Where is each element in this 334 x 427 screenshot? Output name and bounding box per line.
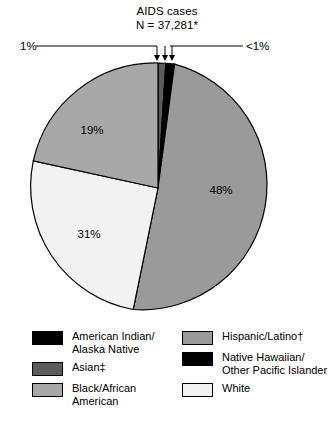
callout-arrowheads [154,55,175,61]
legend-swatch-asian [32,362,63,376]
legend-label-hispanic-latino: Hispanic/Latino† [222,330,303,343]
legend-swatch-black-african-american [32,383,63,397]
legend-item-black-african-american[interactable]: Black/African American [32,382,182,407]
legend-column-left: American Indian/ Alaska Native Asian‡ Bl… [32,330,182,413]
slice-label-black-african-american: 19% [80,124,103,136]
leader-line-left [36,46,157,56]
legend-item-asian[interactable]: Asian‡ [32,361,182,376]
callout-leader-lines [36,46,243,56]
legend-item-white[interactable]: White [182,382,334,397]
legend-swatch-white [182,383,213,397]
legend-item-native-hawaiian-other-pacific-islander[interactable]: Native Hawaiian/ Other Pacific Islander [182,351,334,376]
legend-label-asian: Asian‡ [72,361,106,374]
legend-label-native-hawaiian-other-pacific-islander: Native Hawaiian/ Other Pacific Islander [222,351,327,376]
arrowhead-1 [154,55,160,61]
legend-swatch-native-hawaiian-other-pacific-islander [182,352,213,366]
legend-label-american-indian-alaska-native: American Indian/ Alaska Native [72,330,155,355]
legend-item-hispanic-latino[interactable]: Hispanic/Latino† [182,330,334,345]
arrowhead-3 [169,55,175,61]
legend-swatch-american-indian-alaska-native [32,331,63,345]
legend-column-right: Hispanic/Latino† Native Hawaiian/ Other … [182,330,334,403]
legend: American Indian/ Alaska Native Asian‡ Bl… [0,330,334,426]
legend-label-white: White [222,382,250,395]
pie-chart: 48% 31% 19% [0,0,334,320]
slice-label-hispanic-latino: 48% [209,184,232,196]
slice-label-white: 31% [77,228,100,240]
legend-swatch-hispanic-latino [182,331,213,345]
arrowhead-2 [162,55,168,61]
legend-item-american-indian-alaska-native[interactable]: American Indian/ Alaska Native [32,330,182,355]
legend-label-black-african-american: Black/African American [72,382,136,407]
